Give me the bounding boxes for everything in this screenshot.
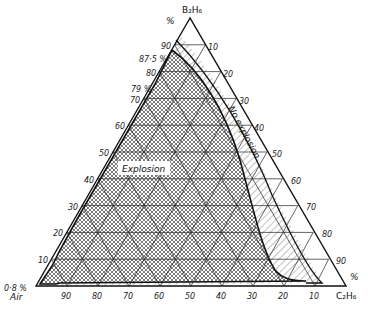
right-percent-unit: % — [350, 272, 359, 282]
svg-text:30: 30 — [239, 97, 249, 106]
vertex-air-label: Air — [9, 292, 24, 302]
svg-text:70: 70 — [306, 203, 316, 212]
svg-text:10: 10 — [309, 292, 319, 301]
annotation-0-8-percent: 0·8 % — [4, 284, 27, 293]
vertex-c2h6-label: C₂H₆ — [336, 291, 357, 301]
svg-text:20: 20 — [53, 229, 63, 238]
bottom-axis-ticks: 90 80 70 60 50 40 30 20 10 — [61, 292, 319, 301]
svg-text:10: 10 — [208, 43, 218, 52]
svg-text:70: 70 — [130, 96, 140, 105]
svg-text:60: 60 — [154, 292, 164, 301]
svg-text:40: 40 — [216, 292, 226, 301]
svg-text:90: 90 — [161, 42, 171, 51]
svg-text:30: 30 — [247, 292, 257, 301]
svg-text:80: 80 — [146, 69, 156, 78]
svg-text:10: 10 — [38, 256, 48, 265]
svg-text:80: 80 — [92, 292, 102, 301]
svg-text:90: 90 — [336, 257, 346, 266]
svg-text:20: 20 — [278, 292, 288, 301]
explosion-label: Explosion — [122, 164, 165, 174]
svg-text:50: 50 — [99, 149, 109, 158]
svg-text:40: 40 — [254, 124, 264, 133]
svg-text:70: 70 — [123, 292, 133, 301]
svg-text:40: 40 — [84, 176, 94, 185]
ternary-diagram: B₂H₆ % C₂H₆ % Air 10 20 30 40 50 60 70 8… — [0, 0, 368, 312]
annotation-87-5-percent: 87·5 % — [139, 55, 167, 64]
top-percent-unit: % — [166, 16, 175, 26]
svg-text:60: 60 — [115, 122, 125, 131]
svg-text:20: 20 — [223, 70, 233, 79]
svg-text:60: 60 — [291, 177, 301, 186]
svg-text:50: 50 — [272, 150, 282, 159]
svg-text:30: 30 — [68, 203, 78, 212]
svg-text:50: 50 — [185, 292, 195, 301]
svg-text:80: 80 — [322, 230, 332, 239]
annotation-79-percent: 79 % — [131, 85, 151, 94]
svg-text:90: 90 — [61, 292, 71, 301]
vertex-b2h6-label: B₂H₆ — [182, 5, 203, 15]
